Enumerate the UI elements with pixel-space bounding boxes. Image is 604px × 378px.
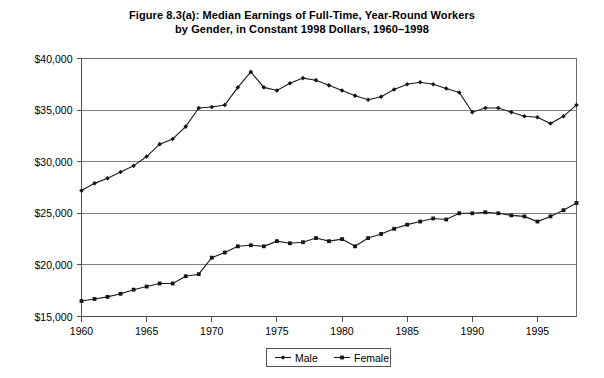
- data-point-female: [444, 218, 448, 222]
- data-point-female: [509, 213, 513, 217]
- series-line-female: [82, 203, 577, 301]
- data-point-male: [209, 105, 214, 110]
- x-tick-label: 1980: [330, 325, 354, 337]
- data-point-male: [92, 181, 97, 186]
- data-point-male: [522, 114, 527, 119]
- chart-title-line-2: by Gender, in Constant 1998 Dollars, 196…: [0, 22, 604, 36]
- y-tick-label: $35,000: [35, 104, 73, 116]
- data-point-female: [457, 211, 461, 215]
- x-tick-label: 1985: [395, 325, 419, 337]
- line-chart: $15,000$20,000$25,000$30,000$35,000$40,0…: [0, 0, 604, 378]
- data-point-female: [275, 239, 279, 243]
- y-tick-label: $40,000: [35, 53, 73, 65]
- y-tick-label: $30,000: [35, 156, 73, 168]
- data-point-male: [118, 170, 123, 175]
- y-tick-label: $20,000: [35, 259, 73, 271]
- data-point-female: [536, 220, 540, 224]
- data-point-male: [431, 82, 436, 87]
- data-series: [79, 70, 579, 303]
- legend-label-female: Female: [354, 352, 389, 364]
- data-point-female: [562, 208, 566, 212]
- legend-marker-female: [340, 356, 344, 360]
- x-axis-ticks: 19601965197019751980198519901995: [70, 317, 549, 337]
- data-point-male: [288, 81, 293, 86]
- plot-frame: [82, 59, 577, 317]
- figure-container: Figure 8.3(a): Median Earnings of Full-T…: [0, 0, 604, 378]
- data-point-female: [106, 295, 110, 299]
- data-point-female: [223, 251, 227, 255]
- data-point-male: [275, 88, 280, 93]
- data-point-female: [314, 236, 318, 240]
- data-point-female: [379, 232, 383, 236]
- data-point-male: [444, 86, 449, 91]
- data-point-male: [105, 176, 110, 181]
- data-point-male: [392, 87, 397, 92]
- data-point-male: [340, 88, 345, 93]
- data-point-female: [288, 241, 292, 245]
- x-tick-label: 1970: [200, 325, 224, 337]
- data-point-female: [184, 274, 188, 278]
- data-point-male: [548, 121, 553, 126]
- data-point-male: [79, 188, 84, 193]
- data-point-male: [379, 94, 384, 99]
- data-point-female: [301, 240, 305, 244]
- data-point-male: [535, 115, 540, 120]
- series-line-male: [82, 72, 577, 191]
- data-point-female: [470, 211, 474, 215]
- y-axis-ticks: $15,000$20,000$25,000$30,000$35,000$40,0…: [35, 53, 82, 323]
- chart-legend: MaleFemale: [267, 349, 391, 367]
- data-point-female: [353, 244, 357, 248]
- data-point-female: [418, 220, 422, 224]
- x-tick-label: 1990: [461, 325, 485, 337]
- data-point-male: [418, 80, 423, 85]
- data-point-female: [483, 210, 487, 214]
- data-point-female: [80, 299, 84, 303]
- data-point-female: [210, 256, 214, 260]
- data-point-male: [353, 93, 358, 98]
- data-point-female: [340, 237, 344, 241]
- data-point-female: [431, 217, 435, 221]
- data-point-male: [366, 97, 371, 102]
- data-point-male: [314, 78, 319, 83]
- y-tick-label: $25,000: [35, 207, 73, 219]
- data-point-male: [301, 76, 306, 81]
- data-point-female: [496, 211, 500, 215]
- x-tick-label: 1975: [265, 325, 289, 337]
- x-tick-label: 1965: [135, 325, 159, 337]
- data-point-female: [327, 239, 331, 243]
- data-point-female: [522, 214, 526, 218]
- data-point-female: [549, 214, 553, 218]
- data-point-female: [392, 227, 396, 231]
- data-point-female: [171, 282, 175, 286]
- legend-label-male: Male: [295, 352, 318, 364]
- data-point-female: [262, 244, 266, 248]
- x-tick-label: 1995: [526, 325, 550, 337]
- chart-title-line-1: Figure 8.3(a): Median Earnings of Full-T…: [0, 8, 604, 22]
- x-tick-label: 1960: [70, 325, 94, 337]
- data-point-female: [158, 282, 162, 286]
- data-point-female: [236, 244, 240, 248]
- data-point-female: [366, 236, 370, 240]
- data-point-female: [249, 243, 253, 247]
- data-point-male: [405, 82, 410, 87]
- data-point-female: [575, 201, 579, 205]
- data-point-female: [93, 297, 97, 301]
- data-point-female: [405, 223, 409, 227]
- data-point-female: [119, 292, 123, 296]
- data-point-female: [197, 272, 201, 276]
- chart-title: Figure 8.3(a): Median Earnings of Full-T…: [0, 8, 604, 36]
- data-point-female: [132, 288, 136, 292]
- data-point-female: [145, 285, 149, 289]
- y-tick-label: $15,000: [35, 311, 73, 323]
- data-point-male: [327, 83, 332, 88]
